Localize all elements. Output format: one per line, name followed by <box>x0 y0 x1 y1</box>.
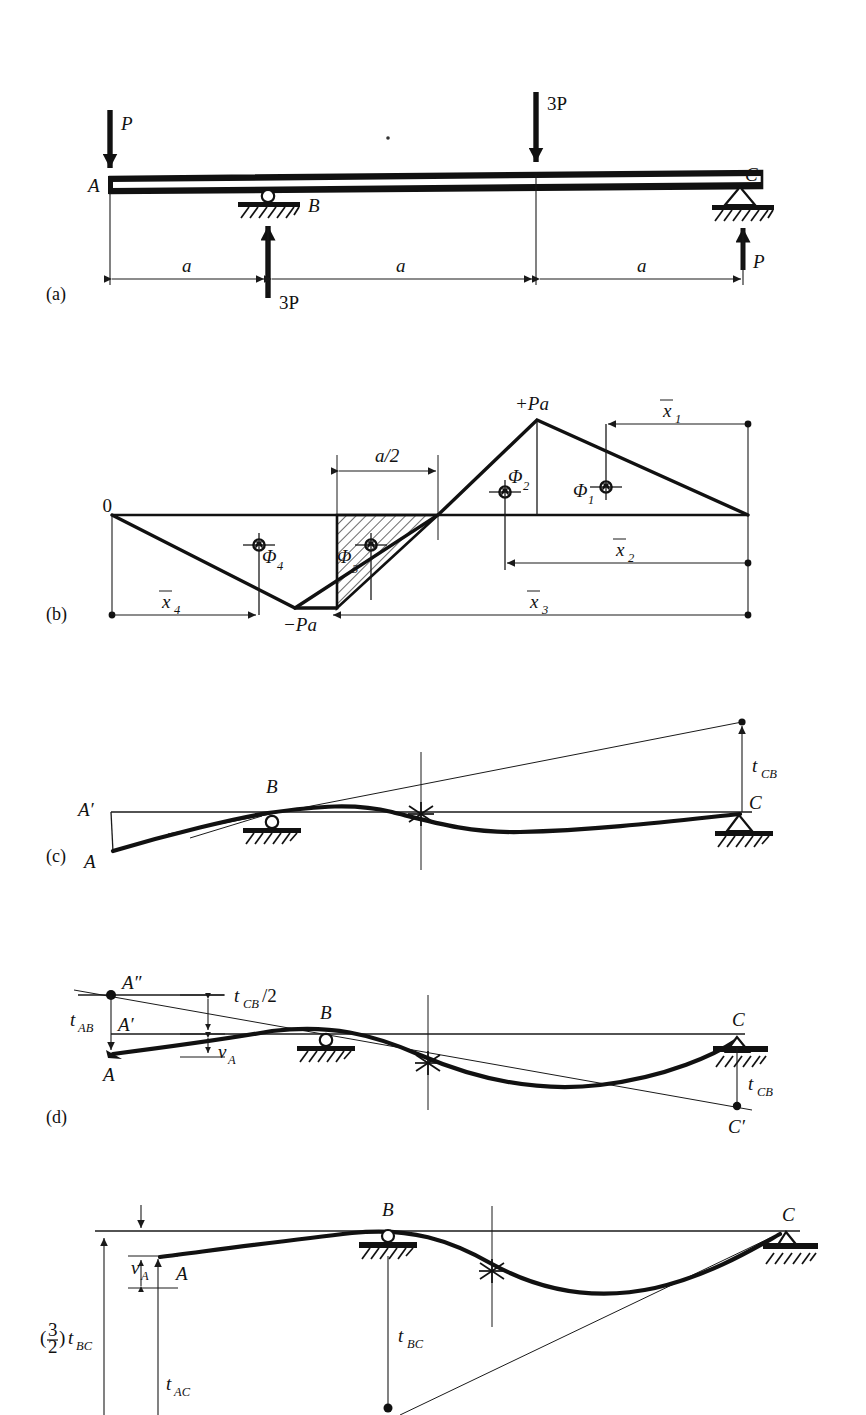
node-label-C: C <box>745 164 758 185</box>
node-label-C-d: C <box>732 1009 745 1030</box>
node-label-Adprime-d: A″ <box>120 972 143 993</box>
area-sub-phi4: 4 <box>277 559 283 573</box>
label-tBC-outer-e: t <box>68 1327 74 1348</box>
sub-tBC-outer-e: BC <box>76 1339 93 1353</box>
peak-positive-label: +Pa <box>515 393 549 414</box>
dim-sub-xbar1: 1 <box>675 412 681 426</box>
node-label-A-d: A <box>101 1064 115 1085</box>
sub-tBC-e: BC <box>407 1337 424 1351</box>
ref-dot-x2 <box>745 560 752 567</box>
node-label-B: B <box>308 195 320 216</box>
peak-negative-label: −Pa <box>283 614 317 635</box>
panel-c-label: (c) <box>46 846 66 867</box>
dim-sub-xbar2: 2 <box>628 551 634 565</box>
sub-tAB-d: AB <box>77 1021 94 1035</box>
area-sub-phi2: 2 <box>523 479 529 493</box>
sub-tCB-c: CB <box>761 767 777 781</box>
fraction-denominator-e: 2 <box>48 1336 58 1357</box>
label-tAB-d: t <box>70 1009 76 1030</box>
sub-tAC-e: AC <box>173 1385 191 1399</box>
area-label-phi4: Φ <box>262 546 276 567</box>
node-label-A-e: A <box>174 1263 188 1284</box>
load-label-P: P <box>120 113 133 134</box>
label-tCB-half-d: t <box>234 985 240 1006</box>
node-label-B-e: B <box>382 1199 394 1220</box>
reaction-label-3P: 3P <box>279 292 299 313</box>
dim-label-a-over-2: a/2 <box>375 445 400 466</box>
label-vA-e: v <box>131 1257 140 1278</box>
node-dot-Cprime-d <box>733 1102 741 1110</box>
sub-vA-e: A <box>140 1269 149 1283</box>
panel-d-label: (d) <box>46 1107 67 1128</box>
stray-ink-dot <box>386 136 390 140</box>
beam-analysis-figure: (a) P 3P A C B <box>0 0 866 1415</box>
node-label-C-c: C <box>749 792 762 813</box>
figure-background <box>0 0 866 1415</box>
dim-label-xbar2: x <box>615 539 625 560</box>
node-label-A-c: A <box>82 851 96 872</box>
reaction-label-P: P <box>752 251 765 272</box>
fraction-close-paren-e: ) <box>59 1327 65 1349</box>
dim-sub-xbar3: 3 <box>541 603 548 617</box>
panel-a-label: (a) <box>46 284 66 305</box>
node-label-B-d: B <box>320 1002 332 1023</box>
node-label-A: A <box>86 175 100 196</box>
zero-label: 0 <box>103 495 113 516</box>
dim-label-xbar3: x <box>529 591 539 612</box>
node-label-C-e: C <box>782 1204 795 1225</box>
area-label-phi3: Φ <box>337 546 351 567</box>
dim-label-xbar4: x <box>161 591 171 612</box>
suffix-tCB-half-d: /2 <box>262 985 277 1006</box>
label-tBC-e: t <box>398 1325 404 1346</box>
load-label-3P: 3P <box>547 93 567 114</box>
label-vA-d: v <box>218 1041 227 1062</box>
figure-container: (a) P 3P A C B <box>0 0 866 1415</box>
ref-dot-x1 <box>745 421 752 428</box>
sub-tCB-d: CB <box>757 1085 773 1099</box>
sub-tCB-half-d: CB <box>243 997 259 1011</box>
label-tCB-d: t <box>748 1073 754 1094</box>
node-label-Cprime-d: C′ <box>728 1116 746 1137</box>
label-tCB-c: t <box>752 755 758 776</box>
sub-vA-d: A <box>227 1053 236 1067</box>
area-sub-phi1: 1 <box>588 493 594 507</box>
area-label-phi2: Φ <box>508 466 522 487</box>
panel-b-label: (b) <box>46 604 67 625</box>
node-dot-Bprime-e <box>384 1404 393 1413</box>
fraction-open-paren-e: ( <box>40 1327 46 1349</box>
dim-label-a-2: a <box>396 255 406 276</box>
dim-label-a-3: a <box>637 255 647 276</box>
dim-label-xbar1: x <box>662 400 672 421</box>
dim-sub-xbar4: 4 <box>174 603 180 617</box>
area-label-phi1: Φ <box>573 480 587 501</box>
dim-label-a-1: a <box>182 255 192 276</box>
ref-dot-x3 <box>745 612 752 619</box>
node-label-Aprime-d: A′ <box>116 1014 135 1035</box>
node-label-B-c: B <box>266 776 278 797</box>
label-tAC-e: t <box>166 1373 172 1394</box>
node-label-A-prime-c: A′ <box>76 799 95 820</box>
tangent-endpoint-dot-c <box>738 718 745 725</box>
area-sub-phi3: 3 <box>351 562 358 576</box>
